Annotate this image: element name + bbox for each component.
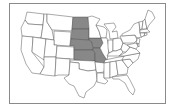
state-south-dakota <box>71 29 89 40</box>
state-wyoming <box>54 31 71 46</box>
state-indiana <box>108 40 113 53</box>
state-mississippi <box>104 62 110 78</box>
state-new-mexico <box>55 58 70 76</box>
state-washington <box>25 12 44 25</box>
state-montana <box>47 14 73 31</box>
state-colorado <box>56 46 74 59</box>
state-massachusetts <box>140 29 150 33</box>
state-maine <box>145 10 155 29</box>
state-north-dakota <box>72 17 89 29</box>
state-florida <box>112 75 135 95</box>
us-map <box>0 0 176 111</box>
state-arkansas <box>95 62 105 73</box>
state-kansas <box>74 50 95 61</box>
